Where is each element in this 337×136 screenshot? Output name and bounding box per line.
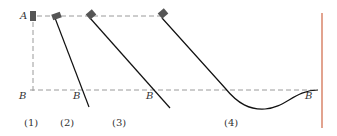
case-label-1: (1) [24, 117, 38, 128]
label-B-case-1: B [18, 90, 26, 101]
case-label-3: (3) [112, 117, 126, 128]
block-case-2 [51, 12, 62, 21]
track-case-2 [55, 18, 89, 107]
case-label-2: (2) [60, 117, 74, 128]
label-A: A [19, 10, 27, 21]
block-case-3 [86, 9, 97, 20]
case-label-4: (4) [224, 117, 238, 128]
label-B-case-2: B [72, 90, 80, 101]
block-case-1 [30, 11, 36, 21]
block-case-4 [158, 8, 169, 19]
brachistochrone-diagram: A B B B B (1) (2) (3) (4) [0, 0, 337, 136]
track-case-3 [90, 18, 170, 108]
label-B-case-4: B [304, 90, 312, 101]
track-case-4 [162, 18, 318, 109]
label-B-case-3: B [145, 90, 153, 101]
